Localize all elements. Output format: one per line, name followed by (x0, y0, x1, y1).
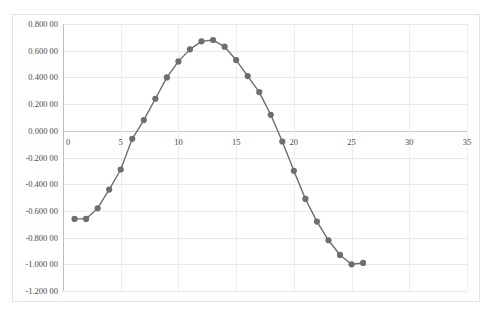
chart-screenshot: 0.800 000.600 000.400 000.200 000.000 00… (0, 0, 493, 317)
data-point-marker (118, 166, 124, 172)
data-point-marker (233, 57, 239, 63)
data-point-marker (141, 117, 147, 123)
data-point-marker (268, 112, 274, 118)
data-point-marker (198, 38, 204, 44)
data-point-marker (106, 186, 112, 192)
data-point-marker (175, 58, 181, 64)
series-line (75, 40, 364, 264)
data-point-marker (302, 196, 308, 202)
data-point-marker (348, 261, 354, 267)
data-point-marker (129, 136, 135, 142)
data-point-marker (71, 216, 77, 222)
data-point-marker (210, 37, 216, 43)
data-point-marker (314, 218, 320, 224)
data-point-marker (187, 46, 193, 52)
data-point-marker (83, 216, 89, 222)
data-point-marker (337, 252, 343, 258)
data-point-marker (222, 44, 228, 50)
data-point-marker (95, 205, 101, 211)
data-point-marker (360, 260, 366, 266)
series-markers (71, 37, 366, 267)
data-point-marker (164, 74, 170, 80)
data-point-marker (245, 73, 251, 79)
data-point-marker (256, 89, 262, 95)
data-point-marker (152, 96, 158, 102)
data-point-marker (291, 168, 297, 174)
series-plot (0, 0, 493, 317)
data-point-marker (325, 237, 331, 243)
data-point-marker (279, 138, 285, 144)
